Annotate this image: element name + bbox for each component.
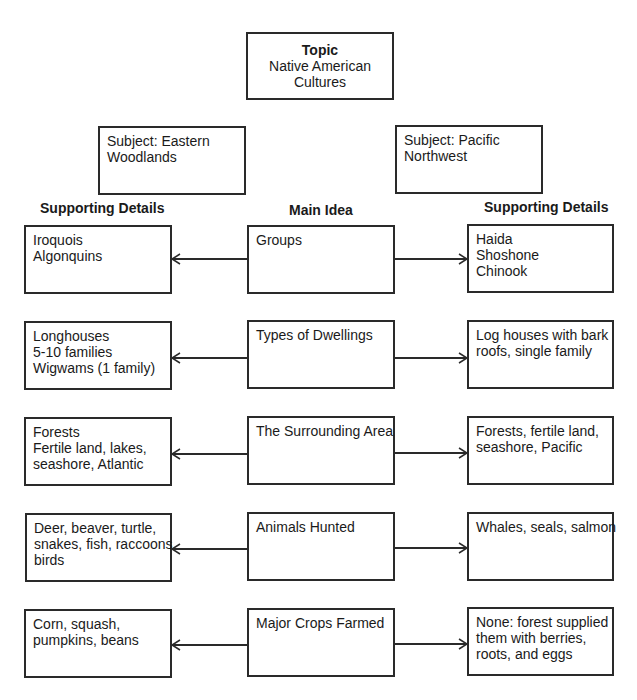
header-main-idea: Main Idea	[289, 202, 353, 218]
detail-line: seashore, Atlantic	[33, 456, 163, 472]
arrow-right-groups	[395, 258, 467, 260]
right-detail-box-groups: Haida Shoshone Chinook	[467, 224, 614, 293]
subject-pacific-northwest-box: Subject: Pacific Northwest	[395, 125, 543, 194]
subject-right-line-2: Northwest	[404, 148, 534, 164]
arrow-left-animals-hunted	[172, 548, 247, 550]
detail-line: Shoshone	[476, 247, 605, 263]
detail-line: Algonquins	[33, 248, 163, 264]
arrow-right-surrounding-area	[395, 452, 467, 454]
arrow-right-animals-hunted	[395, 547, 467, 549]
left-detail-box-surrounding-area: Forests Fertile land, lakes, seashore, A…	[24, 417, 172, 486]
arrowhead-left-icon	[171, 352, 181, 364]
detail-line: Forests	[33, 424, 163, 440]
subject-left-line-1: Subject: Eastern	[107, 133, 237, 149]
main-idea-label: Groups	[256, 232, 386, 248]
detail-line: snakes, fish, raccoons	[34, 536, 163, 552]
detail-line: Iroquois	[33, 232, 163, 248]
left-detail-box-major-crops: Corn, squash, pumpkins, beans	[24, 609, 172, 678]
topic-title: Topic	[255, 42, 385, 58]
main-idea-box-major-crops: Major Crops Farmed	[247, 608, 395, 677]
subject-right-line-1: Subject: Pacific	[404, 132, 534, 148]
arrowhead-left-icon	[171, 543, 181, 555]
detail-line: birds	[34, 552, 163, 568]
right-detail-box-animals-hunted: Whales, seals, salmon	[467, 512, 614, 581]
detail-line: None: forest supplied	[476, 614, 605, 630]
arrow-left-dwellings	[172, 357, 247, 359]
main-idea-box-surrounding-area: The Surrounding Area	[247, 416, 395, 485]
arrowhead-left-icon	[171, 639, 181, 651]
header-left-supporting-details: Supporting Details	[40, 200, 164, 216]
detail-line: Forests, fertile land,	[476, 423, 605, 439]
detail-line: Haida	[476, 231, 605, 247]
detail-line: seashore, Pacific	[476, 439, 605, 455]
arrow-left-major-crops	[172, 644, 247, 646]
detail-line: Wigwams (1 family)	[33, 360, 163, 376]
topic-box: Topic Native American Cultures	[246, 32, 394, 100]
topic-line-2: Cultures	[255, 74, 385, 90]
arrow-right-major-crops	[395, 643, 467, 645]
main-idea-label: Major Crops Farmed	[256, 615, 386, 631]
main-idea-label: Types of Dwellings	[256, 327, 386, 343]
subject-eastern-woodlands-box: Subject: Eastern Woodlands	[98, 126, 246, 195]
right-detail-box-major-crops: None: forest supplied them with berries,…	[467, 607, 614, 676]
detail-line: them with berries,	[476, 630, 605, 646]
arrowhead-left-icon	[171, 253, 181, 265]
header-right-supporting-details: Supporting Details	[484, 199, 608, 215]
arrowhead-left-icon	[171, 448, 181, 460]
detail-line: 5-10 families	[33, 344, 163, 360]
detail-line: Corn, squash,	[33, 616, 163, 632]
detail-line: pumpkins, beans	[33, 632, 163, 648]
arrow-right-dwellings	[395, 357, 467, 359]
detail-line: Fertile land, lakes,	[33, 440, 163, 456]
subject-left-line-2: Woodlands	[107, 149, 237, 165]
main-idea-label: The Surrounding Area	[256, 423, 386, 439]
main-idea-box-animals-hunted: Animals Hunted	[247, 512, 395, 581]
detail-line: roofs, single family	[476, 343, 605, 359]
main-idea-label: Animals Hunted	[256, 519, 386, 535]
right-detail-box-dwellings: Log houses with bark roofs, single famil…	[467, 320, 614, 389]
detail-line: Whales, seals, salmon	[476, 519, 605, 535]
detail-line: Deer, beaver, turtle,	[34, 520, 163, 536]
arrow-left-surrounding-area	[172, 453, 247, 455]
detail-line: roots, and eggs	[476, 646, 605, 662]
left-detail-box-dwellings: Longhouses 5-10 families Wigwams (1 fami…	[24, 321, 172, 390]
arrow-left-groups	[172, 258, 247, 260]
detail-line: Chinook	[476, 263, 605, 279]
main-idea-box-dwellings: Types of Dwellings	[247, 320, 395, 389]
left-detail-box-groups: Iroquois Algonquins	[24, 225, 172, 294]
detail-line: Longhouses	[33, 328, 163, 344]
detail-line: Log houses with bark	[476, 327, 605, 343]
right-detail-box-surrounding-area: Forests, fertile land, seashore, Pacific	[467, 416, 614, 485]
topic-line-1: Native American	[255, 58, 385, 74]
main-idea-box-groups: Groups	[247, 225, 395, 294]
left-detail-box-animals-hunted: Deer, beaver, turtle, snakes, fish, racc…	[25, 513, 172, 582]
